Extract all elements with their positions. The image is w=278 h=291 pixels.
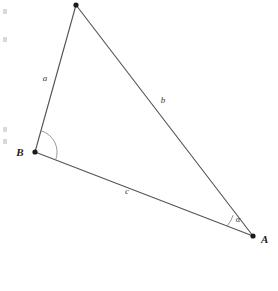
vertex-dot-top xyxy=(73,2,78,7)
side-label-c: c xyxy=(125,186,129,196)
side-label-b: b xyxy=(161,95,166,105)
side-label-a: a xyxy=(43,73,48,83)
scan-artifacts xyxy=(3,9,7,144)
vertex-dot-a xyxy=(250,233,255,238)
angle-arc-alpha xyxy=(227,215,233,226)
triangle-side-a-line xyxy=(35,5,76,152)
vertex-label-a: A xyxy=(260,233,268,245)
vertex-dot-b xyxy=(32,149,37,154)
margin-speck xyxy=(3,9,7,14)
angle-label-alpha: α xyxy=(236,214,241,224)
vertex-label-b: B xyxy=(15,146,23,158)
triangle-figure: a b c B A α xyxy=(0,0,278,291)
margin-speck xyxy=(3,37,7,42)
margin-speck xyxy=(3,139,7,144)
triangle-diagram-canvas: a b c B A α xyxy=(0,0,278,291)
margin-speck xyxy=(3,127,7,132)
